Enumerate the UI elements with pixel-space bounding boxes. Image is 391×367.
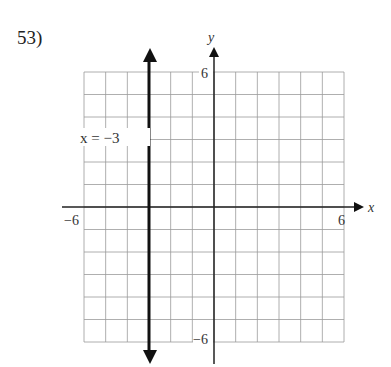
x-min-tick-label: −6	[64, 213, 79, 228]
arrow-down-icon	[143, 350, 157, 364]
y-max-tick-label: 6	[201, 66, 208, 81]
x-axis-label: x	[367, 200, 375, 215]
y-axis-label: y	[206, 30, 215, 45]
arrow-up-icon	[143, 48, 157, 62]
x-max-tick-label: 6	[338, 213, 345, 228]
y-min-tick-label: −6	[193, 332, 208, 347]
equation-label: x = −3	[80, 130, 119, 146]
coordinate-plane: x = −3 y x 6 −6 −6 6	[0, 0, 391, 367]
